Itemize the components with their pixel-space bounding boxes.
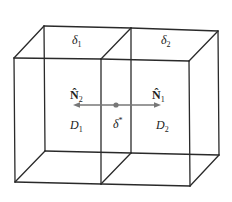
normal-arrows [73, 102, 161, 107]
two-domain-box-diagram: δ1 δ2 N̂2 N̂1 D1 δ* D2 [0, 0, 232, 202]
interface-point [113, 102, 118, 107]
label-normal-n2: N̂2 [70, 88, 83, 104]
label-delta2: δ2 [161, 33, 171, 49]
label-delta1: δ1 [72, 33, 82, 49]
label-domain-d2: D2 [155, 118, 169, 134]
label-interface-delta-star: δ* [113, 116, 123, 131]
label-normal-n1: N̂1 [152, 88, 165, 104]
label-domain-d1: D1 [69, 118, 83, 134]
